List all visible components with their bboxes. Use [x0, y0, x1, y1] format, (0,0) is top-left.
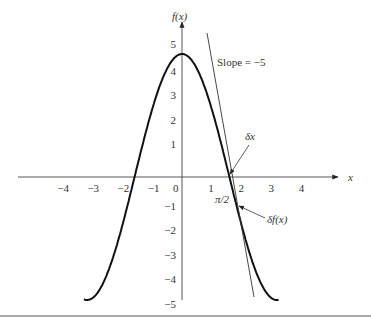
x-tick-labels: −4−3−2−101234 — [57, 182, 305, 194]
y-tick-label: −2 — [164, 224, 176, 236]
chart-svg: −4−3−2−101234 54321−1−2−3−4−5 f(x) x Slo… — [0, 0, 371, 322]
y-tick-labels: 54321−1−2−3−4−5 — [164, 38, 176, 310]
x-tick-label: 1 — [208, 182, 214, 194]
x-tick-label: −2 — [118, 182, 130, 194]
x-tick-label: −1 — [148, 182, 160, 194]
y-tick-label: 2 — [171, 114, 177, 126]
y-axis-label: f(x) — [172, 10, 188, 23]
y-tick-label: 5 — [171, 38, 177, 50]
chart: −4−3−2−101234 54321−1−2−3−4−5 f(x) x Slo… — [0, 0, 371, 322]
y-tick-label: 4 — [171, 65, 177, 77]
dx-arrow — [230, 145, 249, 174]
df-arrow — [239, 206, 265, 218]
df-annotation: δf(x) — [267, 213, 288, 226]
x-tick-label: −3 — [87, 182, 99, 194]
y-tick-label: −5 — [164, 298, 176, 310]
x-tick-label: 3 — [269, 182, 275, 194]
y-tick-label: 1 — [171, 138, 177, 150]
y-tick-label: −3 — [164, 249, 176, 261]
pi-over-2-label: π/2 — [215, 193, 230, 205]
tangent-line — [207, 33, 254, 297]
x-tick-label: 0 — [173, 182, 179, 194]
x-tick-label: 2 — [238, 182, 244, 194]
slope-annotation: Slope = −5 — [217, 56, 266, 68]
x-tick-label: 4 — [299, 182, 305, 194]
x-tick-label: −4 — [57, 182, 69, 194]
y-tick-label: −1 — [164, 200, 176, 212]
y-tick-label: 3 — [171, 89, 177, 101]
y-tick-label: −4 — [164, 273, 176, 285]
x-axis-label: x — [347, 171, 353, 183]
dx-annotation: δx — [245, 130, 255, 142]
